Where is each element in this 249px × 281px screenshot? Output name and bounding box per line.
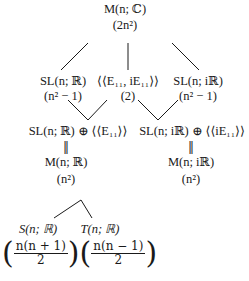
open-paren: ( — [2, 238, 14, 268]
edge-mr-sym — [54, 200, 81, 218]
node-sl-n-ir: SL(n; iℝ) — [173, 74, 223, 88]
node-m-n-c: M(n; ℂ) — [104, 2, 146, 16]
node-s-n-r: S(n; ℝ) — [19, 222, 57, 236]
dim-span-e11: (2) — [121, 89, 136, 103]
dim-s-n-r: ( n(n + 1) 2 ) ( n(n − 1) 2 ) — [2, 238, 157, 268]
numerator-t: n(n − 1) — [91, 240, 145, 254]
open-paren: ( — [80, 238, 92, 268]
numerator-s: n(n + 1) — [14, 240, 68, 254]
node-m-n-ir: M(n; iℝ) — [168, 155, 214, 169]
edge-top-slr — [61, 43, 88, 70]
dim-m-n-c: (2n²) — [113, 18, 138, 32]
edge-slir-sum — [158, 100, 178, 120]
fraction-t: n(n − 1) 2 — [91, 240, 145, 267]
node-sum-ir: SL(n; iℝ) ⊕ ⟨⟨iE₁₁⟩⟩ — [139, 124, 245, 138]
edge-mr-skew — [81, 200, 92, 218]
fraction-s: n(n + 1) 2 — [14, 240, 68, 267]
edge-slr-sum — [68, 100, 88, 120]
edge-top-slir — [172, 43, 199, 70]
node-sum-r: SL(n; ℝ) ⊕ ⟨⟨E₁₁⟩⟩ — [29, 124, 128, 138]
dim-m-n-r: (n²) — [57, 172, 75, 186]
node-sl-n-r: SL(n; ℝ) — [40, 74, 86, 88]
node-span-e11: ⟨⟨E₁₁, iE₁₁⟩⟩ — [97, 74, 159, 88]
close-paren: ) — [68, 238, 80, 268]
dim-sl-n-ir: (n² − 1) — [179, 89, 217, 103]
edge-span-sumir — [138, 100, 158, 120]
dim-m-n-ir: (n²) — [182, 172, 200, 186]
close-paren: ) — [145, 238, 157, 268]
node-t-n-r: T(n; ℝ) — [81, 222, 120, 236]
denominator-t: 2 — [91, 254, 145, 267]
denominator-s: 2 — [14, 254, 68, 267]
node-m-n-r: M(n; ℝ) — [45, 155, 88, 169]
equals-sign-r: ‖ — [63, 142, 69, 152]
equals-sign-ir: ‖ — [188, 142, 194, 152]
dim-sl-n-r: (n² − 1) — [44, 89, 82, 103]
edge-span-sumr — [88, 100, 107, 120]
